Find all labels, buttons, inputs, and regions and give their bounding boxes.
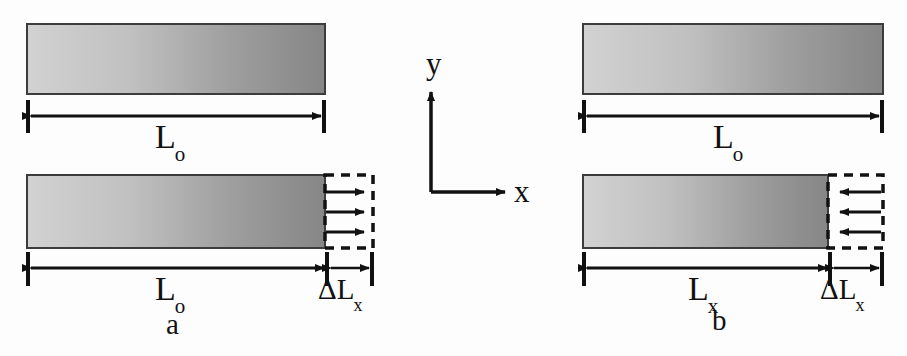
panel-a-delta-label-sub: x (353, 295, 362, 315)
panel-b-delta-label: ΔLx (820, 275, 865, 309)
deformation-figure: Lo Lo ΔLx a y x Lo Lx ΔLx b (0, 0, 907, 356)
panel-b-undeformed-bar (583, 24, 883, 94)
panel-a-tension-arrows (326, 192, 364, 232)
figure-canvas (0, 0, 907, 356)
panel-b-delta-label-main: ΔL (820, 273, 856, 305)
panel-b-top-label-main: L (713, 118, 734, 155)
coordinate-axes (431, 92, 505, 192)
panel-a-caption: a (166, 310, 179, 339)
panel-b-top-label-sub: o (733, 142, 744, 166)
panel-a-deformed-bar (27, 175, 325, 248)
panel-a-top-label-sub: o (175, 142, 186, 166)
panel-a (27, 24, 373, 286)
panel-a-bottom-dimension-label: Lo (155, 272, 186, 312)
x-axis-label: x (514, 176, 530, 207)
panel-b-caption: b (712, 306, 727, 335)
y-axis-label: y (426, 48, 442, 79)
panel-a-delta-label-main: ΔL (318, 273, 354, 305)
panel-b-deformed-bar (583, 175, 828, 248)
panel-b-top-dimension-label: Lo (713, 120, 744, 160)
panel-a-delta-label: ΔLx (318, 275, 363, 309)
panel-b-delta-label-sub: x (855, 295, 864, 315)
panel-a-top-dimension-label: Lo (155, 120, 186, 160)
panel-b-compression-arrows (840, 192, 881, 232)
panel-a-top-label-main: L (155, 118, 176, 155)
panel-a-bottom-label-main: L (155, 270, 176, 307)
panel-a-undeformed-bar (27, 24, 325, 94)
panel-b-bottom-label-main: L (688, 270, 709, 307)
